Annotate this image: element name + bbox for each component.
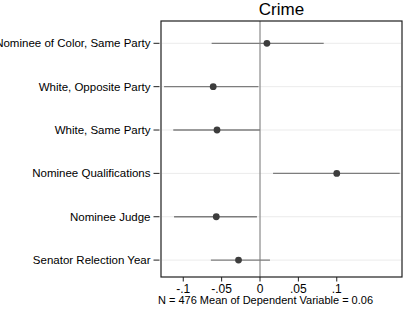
estimate-dot [210,83,217,90]
category-label: Senator Relection Year [33,254,151,266]
coefficient-plot-canvas: -.1-.050.05.1Nominee of Color, Same Part… [0,0,409,313]
estimate-dot [214,127,221,134]
estimate-dot [333,170,340,177]
estimate-dot [235,257,242,264]
category-label: White, Opposite Party [39,81,151,93]
estimate-dot [213,213,220,220]
plot-border [161,21,402,277]
category-label: White, Same Party [55,124,151,136]
category-label: Nominee Qualifications [32,167,151,179]
category-label: Nominee Judge [70,211,151,223]
coefficient-plot-figure: Crime -.1-.050.05.1Nominee of Color, Sam… [0,0,409,313]
category-label: Nominee of Color, Same Party [0,37,151,49]
estimate-dot [264,40,271,47]
chart-note: N = 476 Mean of Dependent Variable = 0.0… [122,294,409,307]
